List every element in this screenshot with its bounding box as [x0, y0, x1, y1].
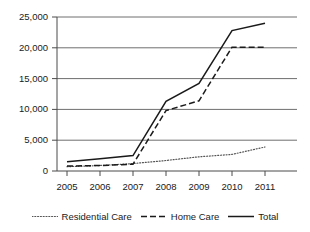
y-axis-ticks	[52, 17, 57, 171]
xtick-label-2010: 2010	[215, 182, 249, 192]
legend-label-total: Total	[258, 211, 278, 222]
xtick-label-2006: 2006	[83, 182, 117, 192]
chart-legend: Residential Care Home Care Total	[0, 211, 310, 222]
x-axis-ticks	[67, 171, 265, 176]
xtick-label-2009: 2009	[182, 182, 216, 192]
ytick-label-20000: 20,000	[4, 43, 48, 53]
legend-label-home-care: Home Care	[171, 211, 220, 222]
xtick-label-2005: 2005	[50, 182, 84, 192]
legend-item-total: Total	[228, 211, 278, 222]
ytick-label-15000: 15,000	[4, 74, 48, 84]
xtick-label-2007: 2007	[116, 182, 150, 192]
series-line-residential-care	[67, 147, 265, 167]
ytick-label-0: 0	[4, 166, 48, 176]
ytick-label-10000: 10,000	[4, 104, 48, 114]
ytick-label-25000: 25,000	[4, 12, 48, 22]
legend-swatch-dotted-icon	[32, 213, 58, 220]
xtick-label-2011: 2011	[248, 182, 282, 192]
plot-area	[0, 0, 310, 232]
gridlines	[57, 17, 297, 140]
legend-swatch-solid-icon	[228, 213, 254, 220]
line-chart: 25,000 20,000 15,000 10,000 5,000 0 2005…	[0, 0, 310, 232]
legend-item-residential-care: Residential Care	[32, 211, 132, 222]
ytick-label-5000: 5,000	[4, 135, 48, 145]
legend-label-residential-care: Residential Care	[62, 211, 132, 222]
xtick-label-2008: 2008	[149, 182, 183, 192]
series-line-total	[67, 23, 265, 162]
legend-swatch-dashed-icon	[141, 213, 167, 220]
legend-item-home-care: Home Care	[141, 211, 220, 222]
series-line-home-care	[67, 47, 265, 166]
